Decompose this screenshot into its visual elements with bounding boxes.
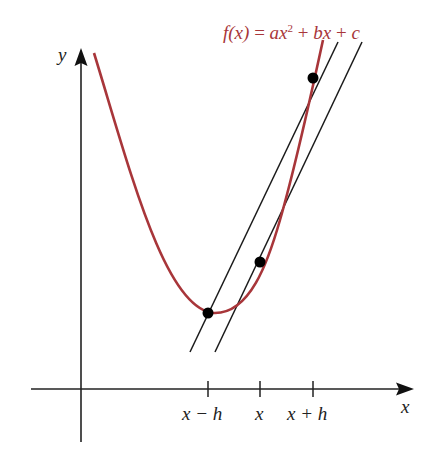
tick-label-x: x [255, 403, 263, 425]
secant-line [190, 42, 338, 352]
y-axis-label: y [58, 44, 66, 66]
point-x-plus-h [308, 73, 319, 84]
term-c: c [351, 22, 359, 43]
parabola-secant-tangent-diagram [0, 0, 445, 463]
term-ax2: ax [270, 22, 288, 43]
plus-sign: + [336, 22, 347, 43]
function-label: f(x) = ax2 + bx + c [223, 22, 360, 44]
point-x-minus-h [203, 308, 214, 319]
parabola-curve [94, 40, 323, 313]
equals-sign: = [254, 22, 265, 43]
function-name: f(x) [223, 22, 249, 43]
term-bx: bx [313, 22, 331, 43]
point-x [255, 257, 266, 268]
x-axis-label: x [401, 396, 409, 418]
axes [31, 48, 414, 442]
plus-sign: + [298, 22, 309, 43]
tick-label-x-minus-h: x − h [182, 403, 222, 425]
exponent: 2 [288, 22, 294, 34]
tick-label-x-plus-h: x + h [287, 403, 327, 425]
